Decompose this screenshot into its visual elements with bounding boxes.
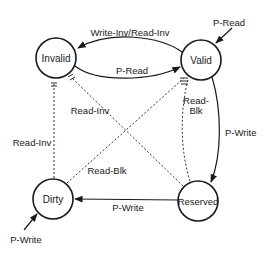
label-p-read-ext: P-Read	[213, 17, 245, 28]
state-dirty-label: Dirty	[43, 194, 64, 205]
edge-reserved-to-valid	[180, 78, 190, 181]
edge-valid-to-invalid	[78, 37, 182, 52]
state-reserved: Reserved	[178, 181, 219, 221]
edge-external-to-dirty	[24, 214, 37, 230]
state-reserved-label: Reserved	[178, 196, 219, 207]
label-p-write-ext: P-Write	[10, 234, 42, 245]
label-p-write-bottom: P-Write	[112, 202, 144, 213]
label-write-inv-read-inv: Write-Inv/Read-Inv	[90, 27, 169, 38]
label-read-blk-right-line2: Blk	[189, 105, 202, 116]
edge-external-to-valid	[216, 28, 232, 43]
state-invalid-label: Invalid	[42, 53, 71, 64]
label-read-inv-diag: Read-Inv	[71, 105, 110, 116]
label-read-inv-left: Read-Inv	[13, 137, 52, 148]
label-read-blk-diag: Read-Blk	[87, 165, 126, 176]
edge-reserved-to-dirty	[75, 199, 178, 200]
label-p-read-mid: P-Read	[116, 65, 148, 76]
label-p-write-right: P-Write	[225, 127, 257, 138]
state-invalid: Invalid	[36, 38, 76, 78]
state-dirty: Dirty	[33, 179, 73, 219]
state-diagram: Invalid Valid Dirty Reserved Write-Inv/R…	[0, 0, 264, 259]
state-valid: Valid	[181, 40, 221, 80]
edge-dirty-to-invalid	[51, 82, 57, 178]
state-valid-label: Valid	[190, 55, 212, 66]
edge-valid-to-reserved	[211, 77, 219, 182]
